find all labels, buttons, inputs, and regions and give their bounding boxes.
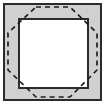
inner-square bbox=[19, 19, 88, 88]
figure-canvas bbox=[0, 0, 107, 105]
geometric-figure bbox=[0, 0, 107, 105]
